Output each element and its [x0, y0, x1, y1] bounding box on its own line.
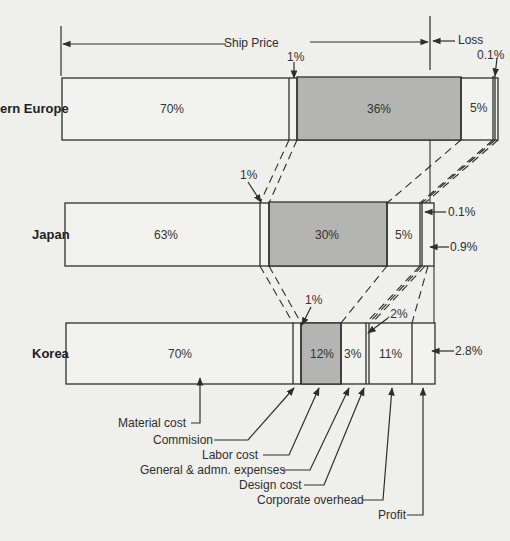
country-label-korea: Korea [32, 346, 69, 361]
legend-design-cost: Design cost [239, 478, 302, 492]
segment-label-material: 70% [168, 347, 192, 361]
segment-label-commission: 1% [305, 293, 322, 307]
legend-general-admin-expenses: General & admn. expenses [140, 463, 285, 477]
segment-label-design: .2% [387, 307, 408, 321]
segment-label-material: 70% [160, 102, 184, 116]
segment-label-general: 3% [344, 347, 361, 361]
segment-label-labor: 30% [315, 228, 339, 242]
segment-label-commission: 1% [287, 50, 304, 64]
segment-label-general: 5% [470, 101, 487, 115]
legend-commission: Commision [153, 433, 213, 447]
ship-price-label: Ship Price [224, 36, 279, 50]
bar-japan [65, 202, 434, 266]
loss-label: Loss [458, 33, 483, 47]
segment-label-design: 0.1% [448, 205, 475, 219]
legend-material-cost: Material cost [118, 416, 186, 430]
legend-profit: Profit [378, 508, 406, 522]
segment-label-design: 0.1% [477, 48, 504, 62]
segment-label-profit: 2.8% [455, 344, 482, 358]
legend-labor-cost: Labor cost [202, 448, 258, 462]
segment-label-labor: 12% [310, 347, 334, 361]
segment-label-labor: 36% [367, 102, 391, 116]
segment-label-overhead: 11% [379, 347, 402, 361]
cost-structure-diagram: Ship Price Loss ern Europe 70% 1% 36% 5%… [0, 0, 510, 541]
segment-label-material: 63% [154, 228, 178, 242]
connector-lines-europe-japan [260, 140, 498, 203]
segment-label-profit: 0.9% [450, 240, 477, 254]
country-label-japan: Japan [32, 227, 70, 242]
country-label-western-europe: ern Europe [0, 101, 69, 116]
bar-western-europe [62, 76, 498, 140]
segment-label-general: 5% [395, 228, 412, 242]
segment-label-commission: 1% [240, 168, 257, 182]
legend-corporate-overhead: Corporate overhead [257, 493, 364, 507]
